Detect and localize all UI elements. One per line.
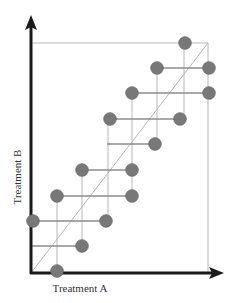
data-point [126, 87, 139, 100]
data-point [76, 164, 89, 177]
data-point [151, 62, 164, 75]
y-axis-label: Treatment B [11, 150, 23, 205]
data-point [179, 37, 192, 50]
data-point [203, 87, 216, 100]
data-point [149, 138, 162, 151]
data-point [203, 62, 216, 75]
data-point [126, 164, 139, 177]
axes [25, 15, 224, 279]
data-point [104, 113, 117, 126]
vertical-guides [57, 43, 208, 273]
horizontal-segments [31, 43, 209, 246]
equality-diagonal [31, 43, 208, 273]
data-point [174, 113, 187, 126]
data-point [27, 215, 40, 228]
x-axis-label: Treatment A [53, 282, 108, 294]
diagonal-line [31, 43, 208, 273]
data-point [126, 190, 139, 203]
data-point [51, 190, 64, 203]
data-point [100, 215, 113, 228]
data-point [76, 240, 89, 253]
data-point [51, 265, 64, 278]
crossover-chart: Treatment A Treatment B [0, 0, 236, 303]
